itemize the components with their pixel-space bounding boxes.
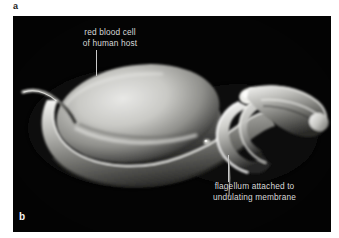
panel-letter-b: b bbox=[19, 211, 25, 222]
annotation-red-blood-cell: red blood cell of human host bbox=[55, 27, 165, 48]
leader-line-red-blood-cell bbox=[96, 50, 97, 76]
annotation-red-blood-cell-line1: red blood cell bbox=[84, 27, 135, 37]
micrograph-photo: red blood cell of human host flagellum a… bbox=[13, 16, 331, 232]
annotation-flagellum: flagellum attached to undulating membran… bbox=[167, 181, 331, 202]
figure-root: a bbox=[0, 0, 339, 238]
annotation-red-blood-cell-line2: of human host bbox=[55, 38, 165, 49]
leader-line-flagellum bbox=[228, 155, 229, 182]
annotation-flagellum-line2: undulating membrane bbox=[167, 192, 331, 203]
panel-letter-a: a bbox=[13, 1, 18, 12]
annotation-flagellum-line1: flagellum attached to bbox=[215, 181, 295, 191]
